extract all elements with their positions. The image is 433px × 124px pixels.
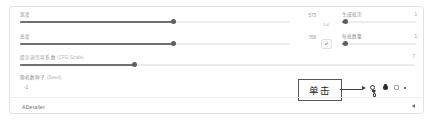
seed-label-text: 随机数种子	[20, 75, 46, 80]
seed-dot	[404, 87, 406, 89]
slider-row-width: 宽度	[20, 12, 290, 23]
label-batch-count: 生成批次	[342, 12, 417, 18]
slider-track-width[interactable]	[20, 21, 290, 24]
value-batch-size[interactable]: 1	[414, 34, 417, 39]
annotation-arrow-head	[362, 86, 366, 90]
generation-settings-panel: 宽度 575 高度 768 1:4 ⇄ 生成批次 1 每批数量 1	[9, 6, 424, 114]
accordion-adetailer[interactable]: ADetailer	[11, 97, 422, 115]
collapse-caret-icon[interactable]	[412, 104, 415, 108]
extra-seed-checkbox-box	[394, 85, 399, 90]
slider-fill-width	[20, 21, 174, 24]
seed-action-icons	[370, 83, 416, 97]
aspect-ratio-indicator: 1:4	[320, 22, 332, 27]
slider-track-height[interactable]	[20, 43, 290, 46]
slider-knob-width[interactable]	[171, 19, 176, 24]
seed-label: 随机数种子 (Seed)	[20, 75, 61, 81]
seed-dot-icon[interactable]	[404, 87, 406, 89]
accordion-title-adetailer: ADetailer	[22, 104, 45, 110]
annotation-arrow-line	[340, 89, 362, 90]
slider-knob-height[interactable]	[171, 41, 176, 46]
slider-track-batch-size[interactable]	[342, 43, 417, 46]
slider-value-height[interactable]: 768	[290, 35, 316, 40]
slider-label-width: 宽度	[20, 12, 290, 18]
annotation-label: 单击	[309, 83, 331, 97]
slider-label-cfg-scale-text: 提示词引导系数	[20, 55, 56, 60]
slider-row-cfg-scale: 提示词引导系数 (CFG Scale)	[20, 55, 415, 66]
dice-seed-body	[383, 85, 388, 90]
label-batch-size: 每批数量	[342, 34, 417, 40]
slider-label-cfg-scale-en: (CFG Scale)	[57, 55, 84, 60]
slider-track-batch-count[interactable]	[342, 21, 417, 24]
dice-seed-icon[interactable]	[383, 85, 388, 90]
dice-seed-cap	[384, 84, 387, 86]
extra-seed-checkbox[interactable]	[394, 85, 399, 90]
slider-value-width[interactable]: 575	[290, 13, 316, 18]
swap-dimensions-button[interactable]: ⇄	[321, 39, 332, 49]
slider-fill-cfg-scale	[20, 64, 135, 67]
slider-knob-batch-size[interactable]	[343, 41, 348, 46]
slider-track-cfg-scale[interactable]	[20, 64, 415, 67]
slider-row-height: 高度	[20, 34, 290, 45]
slider-value-cfg-scale[interactable]: 7	[395, 54, 415, 59]
seed-input[interactable]: -1	[24, 85, 28, 90]
value-batch-count[interactable]: 1	[414, 12, 417, 17]
number-field-batch-count: 生成批次 1	[342, 12, 417, 23]
number-field-batch-size: 每批数量 1	[342, 34, 417, 45]
slider-fill-height	[20, 43, 174, 46]
seed-label-en: (Seed)	[47, 75, 61, 80]
slider-label-height: 高度	[20, 34, 290, 40]
slider-label-cfg-scale: 提示词引导系数 (CFG Scale)	[20, 55, 415, 61]
slider-knob-cfg-scale[interactable]	[132, 62, 137, 67]
slider-knob-batch-count[interactable]	[343, 19, 348, 24]
